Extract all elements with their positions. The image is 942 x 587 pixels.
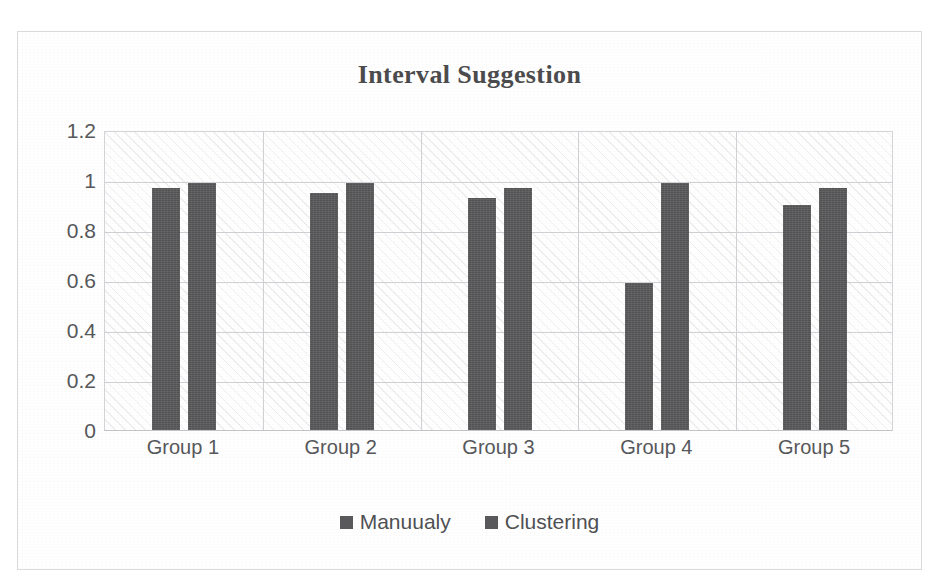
bar-manuualy-group-3 (468, 198, 496, 431)
bar-clustering-group-2 (346, 183, 374, 431)
chart-title: Interval Suggestion (18, 60, 921, 90)
legend-label: Manuualy (360, 510, 451, 534)
x-axis-tick-label: Group 2 (305, 436, 377, 459)
bar-manuualy-group-4 (625, 283, 653, 431)
y-axis-tick-label: 1 (32, 169, 96, 193)
y-axis-tick-label: 0.8 (32, 219, 96, 243)
legend-item-manuualy[interactable]: Manuualy (340, 510, 451, 534)
legend-swatch-icon (340, 516, 353, 529)
x-axis-tick-label: Group 3 (462, 436, 534, 459)
gridline-horizontal (105, 332, 892, 333)
legend-swatch-icon (485, 516, 498, 529)
y-axis-tick-label: 1.2 (32, 119, 96, 143)
bar-manuualy-group-2 (310, 193, 338, 431)
gridline-horizontal (105, 182, 892, 183)
gridline-vertical (578, 132, 579, 430)
legend-label: Clustering (505, 510, 600, 534)
bar-manuualy-group-5 (783, 205, 811, 430)
y-axis-tick-label: 0 (32, 419, 96, 443)
gridline-vertical (263, 132, 264, 430)
x-axis-tick-label: Group 4 (620, 436, 692, 459)
x-axis-tick-label: Group 1 (147, 436, 219, 459)
plot-area (104, 131, 893, 431)
gridline-horizontal (105, 282, 892, 283)
bar-manuualy-group-1 (152, 188, 180, 431)
chart-frame: Interval Suggestion 00.20.40.60.811.2 Gr… (17, 31, 922, 570)
bar-clustering-group-3 (504, 188, 532, 431)
gridline-vertical (736, 132, 737, 430)
bar-clustering-group-5 (819, 188, 847, 431)
y-axis-tick-label: 0.2 (32, 369, 96, 393)
y-axis-tick-label: 0.4 (32, 319, 96, 343)
y-axis: 00.20.40.60.811.2 (26, 131, 96, 431)
bar-clustering-group-4 (661, 183, 689, 431)
gridline-horizontal (105, 232, 892, 233)
x-axis: Group 1Group 2Group 3Group 4Group 5 (104, 436, 893, 476)
gridline-horizontal (105, 382, 892, 383)
chart-legend: ManuualyClustering (18, 510, 921, 534)
y-axis-tick-label: 0.6 (32, 269, 96, 293)
x-axis-tick-label: Group 5 (778, 436, 850, 459)
gridline-vertical (421, 132, 422, 430)
legend-item-clustering[interactable]: Clustering (485, 510, 600, 534)
bar-clustering-group-1 (188, 183, 216, 431)
